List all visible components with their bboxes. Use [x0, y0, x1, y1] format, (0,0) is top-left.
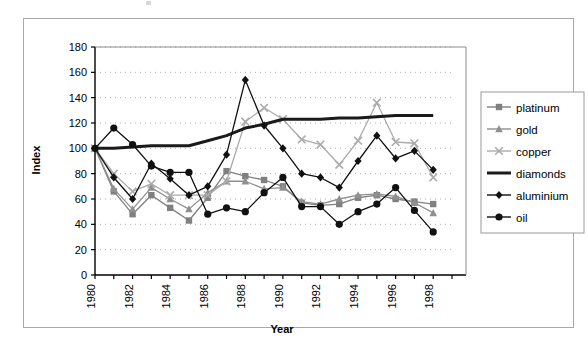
y-tick-label: 180 — [69, 41, 87, 53]
x-tick-label: 1986 — [198, 284, 210, 308]
axes — [91, 47, 466, 279]
y-tick-label: 20 — [75, 244, 87, 256]
legend-label-copper: copper — [516, 146, 551, 158]
legend-label-platinum: platinum — [516, 102, 559, 114]
marker-circle — [279, 174, 286, 181]
y-tick-label: 40 — [75, 218, 87, 230]
y-tick-label: 120 — [69, 117, 87, 129]
x-tick-label: 1996 — [386, 284, 398, 308]
marker-circle — [317, 203, 324, 210]
marker-circle — [242, 208, 249, 215]
y-axis-title: Index — [30, 145, 42, 175]
x-tick-labels: 1980198219841986198819901992199419961998 — [85, 284, 435, 308]
y-tick-label: 100 — [69, 142, 87, 154]
marker-circle — [148, 162, 155, 169]
data-series — [91, 76, 437, 236]
marker-x — [298, 136, 306, 144]
legend: platinumgoldcopperdiamondsaluminiumoil — [481, 92, 584, 233]
marker-circle — [495, 213, 502, 220]
marker-circle — [261, 189, 268, 196]
x-tick-label: 1994 — [348, 284, 360, 308]
y-tick-label: 0 — [81, 269, 87, 281]
marker-diamond — [223, 151, 230, 159]
marker-triangle — [429, 209, 437, 216]
marker-square — [430, 201, 436, 207]
marker-x — [317, 141, 325, 149]
marker-x — [260, 104, 268, 112]
marker-diamond — [204, 182, 211, 190]
x-tick-label: 1992 — [310, 284, 322, 308]
x-tick-label: 1990 — [273, 284, 285, 308]
marker-circle — [430, 228, 437, 235]
marker-circle — [298, 203, 305, 210]
gridlines — [95, 47, 452, 250]
marker-square — [167, 205, 173, 211]
marker-circle — [110, 124, 117, 131]
y-tick-label: 60 — [75, 193, 87, 205]
marker-circle — [223, 204, 230, 211]
legend-label-diamonds: diamonds — [516, 168, 566, 180]
marker-circle — [167, 169, 174, 176]
marker-square — [148, 192, 154, 198]
series-copper — [91, 99, 437, 199]
marker-x — [354, 137, 362, 145]
marker-x — [335, 161, 343, 169]
x-tick-label: 1984 — [160, 284, 172, 308]
x-tick-label: 1980 — [85, 284, 97, 308]
marker-circle — [129, 141, 136, 148]
y-tick-label: 160 — [69, 66, 87, 78]
marker-circle — [373, 200, 380, 207]
marker-diamond — [317, 173, 324, 181]
marker-circle — [204, 211, 211, 218]
marker-x — [242, 118, 250, 126]
marker-circle — [392, 184, 399, 191]
x-tick-label: 1982 — [123, 284, 135, 308]
y-tick-label: 80 — [75, 168, 87, 180]
marker-circle — [91, 145, 98, 152]
marker-circle — [185, 169, 192, 176]
marker-circle — [354, 208, 361, 215]
x-tick-label: 1998 — [423, 284, 435, 308]
chart-page: 020406080100120140160180 198019821984198… — [0, 0, 588, 346]
y-tick-labels: 020406080100120140160180 — [69, 41, 87, 281]
marker-square — [186, 217, 192, 223]
chart-canvas: 020406080100120140160180 198019821984198… — [0, 0, 588, 346]
marker-square — [261, 177, 267, 183]
marker-diamond — [242, 76, 249, 84]
marker-square — [496, 104, 502, 110]
x-axis-title: Year — [270, 323, 294, 335]
x-tick-label: 1988 — [235, 284, 247, 308]
marker-circle — [411, 207, 418, 214]
legend-label-aluminium: aluminium — [516, 190, 568, 202]
y-tick-label: 140 — [69, 92, 87, 104]
legend-label-gold: gold — [516, 124, 538, 136]
series-aluminium — [91, 76, 436, 203]
marker-circle — [336, 221, 343, 228]
legend-label-oil: oil — [516, 212, 528, 224]
marker-x — [429, 174, 437, 182]
marker-x — [373, 99, 381, 107]
